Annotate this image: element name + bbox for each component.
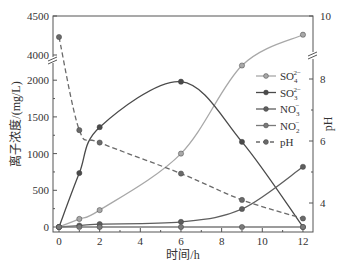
series-ph-marker: [77, 128, 82, 133]
x-tick-label: 10: [257, 235, 269, 247]
series-so3-marker: [239, 139, 244, 144]
series-so3-marker: [178, 79, 183, 84]
series-no2-marker: [239, 224, 244, 229]
legend-marker: [264, 107, 269, 112]
y-left-tick-label: 4500: [27, 10, 50, 22]
y-left-tick-label: 1500: [27, 111, 50, 123]
legend-label-no3: NO3−: [280, 102, 300, 118]
x-tick-label: 12: [297, 235, 308, 247]
x-tick-label: 8: [219, 235, 225, 247]
legend-label-no2: NO2−: [280, 119, 300, 135]
x-tick-label: 2: [97, 235, 103, 247]
y-left-tick-label: 0: [44, 221, 50, 233]
series-ph-marker: [300, 216, 305, 221]
x-tick-label: 0: [56, 235, 62, 247]
series-ph-marker: [239, 197, 244, 202]
plot-frame: [53, 16, 313, 232]
series-ph-marker: [97, 140, 102, 145]
y-left-tick-label: 4000: [27, 49, 50, 61]
chart-svg: 024681012时间/h050010001500200040004500离子浓…: [0, 0, 345, 268]
series-no2-marker: [56, 224, 61, 229]
series-so4-marker: [178, 151, 183, 156]
y-right-tick-label: 8: [320, 73, 326, 85]
x-tick-label: 6: [178, 235, 184, 247]
ion-concentration-ph-chart: 024681012时间/h050010001500200040004500离子浓…: [0, 0, 345, 268]
legend-label-ph: pH: [280, 136, 294, 148]
series-so4-marker: [97, 208, 102, 213]
y-right-tick-label: 10: [320, 10, 332, 22]
y-right-tick-label: 4: [320, 197, 326, 209]
series-no2-marker: [97, 224, 102, 229]
series-no2-marker: [77, 224, 82, 229]
series-no2-marker: [300, 224, 305, 229]
y2-axis-label: pH: [321, 116, 335, 131]
series-ph-marker: [56, 34, 61, 39]
series-so3-marker: [97, 125, 102, 130]
legend-label-so4: SO42−: [280, 69, 301, 85]
y-right-tick-label: 6: [320, 135, 326, 147]
y-left-tick-label: 1000: [27, 148, 50, 160]
series-so3-marker: [77, 170, 82, 175]
x-tick-label: 4: [138, 235, 144, 247]
legend-marker: [264, 140, 269, 145]
series-no3-marker: [178, 219, 183, 224]
series-no3-marker: [239, 206, 244, 211]
y-left-tick-label: 2000: [27, 74, 50, 86]
legend-marker: [264, 123, 269, 128]
x-axis-label: 时间/h: [166, 248, 199, 262]
legend-marker: [264, 90, 269, 95]
y-left-tick-label: 500: [33, 184, 50, 196]
series-so4-marker: [300, 32, 305, 37]
series-ph-marker: [178, 171, 183, 176]
series-no2-marker: [178, 224, 183, 229]
series-no3-marker: [300, 164, 305, 169]
series-so4-marker: [77, 216, 82, 221]
series-so4-marker: [239, 63, 244, 68]
legend-label-so3: SO32−: [280, 86, 301, 102]
legend-marker: [264, 74, 269, 79]
y-axis-label: 离子浓度/(mg/L): [8, 81, 23, 166]
